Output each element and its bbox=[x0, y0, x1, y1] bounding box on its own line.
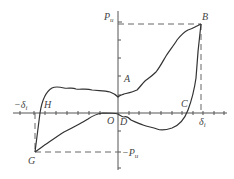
diagram-canvas bbox=[0, 0, 234, 179]
hysteresis-diagram: Pu B A −δi H C δi O D −Pu G bbox=[0, 0, 234, 179]
label-point-b: B bbox=[202, 12, 208, 22]
label-neg-p-u: −Pu bbox=[122, 148, 138, 160]
label-point-h: H bbox=[44, 100, 51, 110]
label-point-g: G bbox=[28, 156, 35, 166]
x-axis bbox=[13, 111, 227, 115]
label-neg-delta-sub: i bbox=[25, 104, 27, 112]
label-neg-p-u-main: −P bbox=[122, 147, 135, 158]
label-neg-delta: −δi bbox=[14, 100, 27, 112]
label-neg-delta-main: −δ bbox=[14, 99, 25, 110]
label-delta: δi bbox=[199, 117, 206, 129]
label-point-c: C bbox=[181, 99, 188, 109]
label-point-d: D bbox=[120, 117, 127, 127]
label-p-u: Pu bbox=[104, 12, 114, 24]
label-point-o: O bbox=[107, 116, 114, 126]
label-p-u-sub: u bbox=[110, 16, 114, 24]
label-point-a: A bbox=[124, 74, 130, 84]
label-neg-p-u-sub: u bbox=[135, 152, 139, 160]
label-delta-sub: i bbox=[204, 121, 206, 129]
